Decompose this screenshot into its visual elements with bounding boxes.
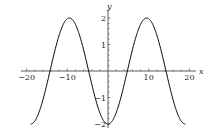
tick-labels: −20−10102021−1−2 bbox=[18, 14, 194, 129]
x-tick-label: 10 bbox=[144, 73, 154, 82]
x-tick-label: −20 bbox=[18, 73, 35, 82]
function-plot: −20−10102021−1−2 x y bbox=[0, 0, 222, 140]
x-axis-label: x bbox=[199, 67, 204, 76]
axes bbox=[21, 10, 196, 128]
x-tick-label: 20 bbox=[184, 73, 194, 82]
y-tick-label: 2 bbox=[101, 14, 106, 23]
y-axis-label: y bbox=[106, 2, 112, 11]
y-tick-label: 1 bbox=[101, 41, 106, 50]
x-tick-label: −10 bbox=[59, 73, 76, 82]
